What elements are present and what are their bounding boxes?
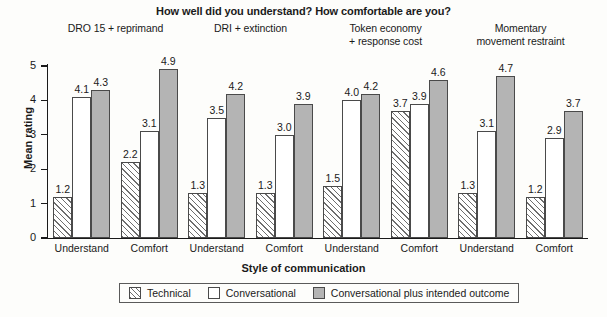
- bar-conversational: [207, 118, 226, 238]
- bar-value-label: 2.2: [119, 148, 141, 160]
- bar-conversational: [72, 97, 91, 238]
- bar-value-label: 3.7: [562, 97, 584, 109]
- legend-label: Conversational plus intended outcome: [331, 287, 510, 299]
- plot-area: 1.24.14.32.23.14.91.33.54.21.33.03.91.54…: [48, 66, 588, 238]
- legend-swatch-outcome: [313, 287, 325, 299]
- bar-technical: [458, 193, 477, 238]
- bar-technical: [53, 197, 72, 238]
- y-tick-label: 1: [10, 197, 36, 209]
- chart-legend: TechnicalConversationalConversational pl…: [119, 283, 519, 303]
- legend-swatch-technical: [129, 287, 141, 299]
- bar-value-label: 1.2: [52, 183, 74, 195]
- bar-value-label: 2.9: [543, 124, 565, 136]
- bar-technical: [323, 186, 342, 238]
- x-category-label: Understand: [449, 242, 525, 254]
- bar-outcome: [294, 104, 313, 238]
- bar-technical: [121, 162, 140, 238]
- bar-value-label: 3.0: [273, 121, 295, 133]
- bar-value-label: 3.9: [292, 90, 314, 102]
- panel-header-line1: Token economy: [349, 22, 421, 34]
- bar-outcome: [361, 94, 380, 238]
- legend-label: Technical: [147, 287, 191, 299]
- x-category-label: Understand: [44, 242, 120, 254]
- bar-conversational: [477, 131, 496, 238]
- legend-item: Conversational: [208, 287, 296, 299]
- x-category-label: Understand: [179, 242, 255, 254]
- x-category-label: Comfort: [516, 242, 592, 254]
- bar-outcome: [564, 111, 583, 238]
- legend-label: Conversational: [226, 287, 296, 299]
- y-tick-mark: [41, 100, 48, 101]
- panel-header-line2: movement restraint: [441, 35, 601, 48]
- y-tick-mark: [41, 203, 48, 204]
- bar-conversational: [275, 135, 294, 238]
- bar-value-label: 4.2: [225, 80, 247, 92]
- bar-value-label: 3.9: [408, 90, 430, 102]
- bar-outcome: [159, 69, 178, 238]
- x-category-label: Comfort: [111, 242, 187, 254]
- bar-value-label: 4.7: [495, 62, 517, 74]
- bar-value-label: 3.1: [138, 117, 160, 129]
- panel-header-line1: DRO 15 + reprimand: [68, 22, 163, 34]
- legend-item: Conversational plus intended outcome: [313, 287, 510, 299]
- bar-outcome: [429, 80, 448, 238]
- bar-conversational: [140, 131, 159, 238]
- y-tick-mark: [41, 237, 48, 238]
- bar-value-label: 1.3: [457, 179, 479, 191]
- bar-technical: [526, 197, 545, 238]
- bar-value-label: 3.5: [206, 104, 228, 116]
- bar-value-label: 4.3: [90, 76, 112, 88]
- bar-conversational: [410, 104, 429, 238]
- bar-technical: [188, 193, 207, 238]
- bar-technical: [391, 111, 410, 238]
- panel-header: Momentarymovement restraint: [441, 22, 601, 48]
- chart-figure: How well did you understand? How comfort…: [0, 0, 607, 317]
- chart-title: How well did you understand? How comfort…: [0, 5, 607, 17]
- panel-header-line1: Momentary: [495, 22, 547, 34]
- bar-value-label: 4.9: [157, 55, 179, 67]
- y-tick-mark: [41, 134, 48, 135]
- bar-conversational: [545, 138, 564, 238]
- bar-value-label: 3.1: [476, 117, 498, 129]
- x-category-label: Comfort: [246, 242, 322, 254]
- x-axis-label: Style of communication: [0, 262, 607, 274]
- panel-header-line1: DRI + extinction: [214, 22, 287, 34]
- y-tick-label: 0: [10, 231, 36, 243]
- y-tick-mark: [41, 65, 48, 66]
- bar-value-label: 1.3: [187, 179, 209, 191]
- bar-value-label: 4.6: [427, 66, 449, 78]
- bar-value-label: 4.2: [360, 80, 382, 92]
- y-tick-mark: [41, 169, 48, 170]
- y-axis-label: Mean rating: [22, 93, 34, 183]
- y-tick-label: 5: [10, 59, 36, 71]
- bar-value-label: 1.3: [254, 179, 276, 191]
- x-category-label: Understand: [314, 242, 390, 254]
- bar-outcome: [496, 76, 515, 238]
- bar-value-label: 1.2: [524, 183, 546, 195]
- bar-outcome: [91, 90, 110, 238]
- bar-value-label: 1.5: [322, 172, 344, 184]
- bar-outcome: [226, 94, 245, 238]
- x-category-label: Comfort: [381, 242, 457, 254]
- legend-item: Technical: [129, 287, 191, 299]
- legend-swatch-conversational: [208, 287, 220, 299]
- bar-technical: [256, 193, 275, 238]
- bar-conversational: [342, 100, 361, 238]
